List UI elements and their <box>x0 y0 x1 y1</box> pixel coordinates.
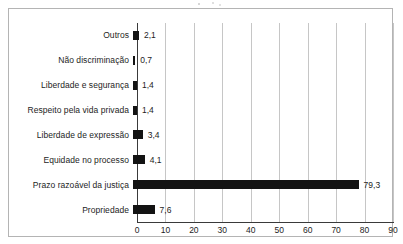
bar-7 <box>133 205 155 214</box>
bar-3 <box>133 106 137 115</box>
scan-speckle-artifact <box>196 2 226 6</box>
bar-row: Liberdade de expressão3,4 <box>9 123 403 148</box>
category-label-3: Respeito pela vida privada <box>9 105 133 115</box>
category-label-2: Liberdade e segurança <box>9 80 133 90</box>
bar-4 <box>133 130 143 139</box>
x-axis-line <box>137 222 394 223</box>
category-label-6: Prazo razoável da justiça <box>9 180 133 190</box>
chart-frame: Outros2,1Não discriminação0,7Liberdade e… <box>8 8 393 237</box>
x-tick-label-90: 90 <box>388 225 397 236</box>
bar-value-label-6: 79,3 <box>364 180 381 190</box>
category-label-4: Liberdade de expressão <box>9 130 133 140</box>
x-tick-label-80: 80 <box>360 225 369 236</box>
x-tick-label-0: 0 <box>135 225 140 236</box>
category-label-5: Equidade no processo <box>9 155 133 165</box>
bar-track: 3,4 <box>133 123 403 148</box>
bar-track: 79,3 <box>133 172 403 197</box>
bar-row: Propriedade7,6 <box>9 197 403 222</box>
bar-track: 4,1 <box>133 147 403 172</box>
x-axis-tick-labels: 0102030405060708090 <box>137 225 394 239</box>
bar-value-label-1: 0,7 <box>140 55 152 65</box>
bar-6 <box>133 180 359 189</box>
bar-track: 1,4 <box>133 73 403 98</box>
x-tick-label-20: 20 <box>189 225 198 236</box>
bar-5 <box>133 155 145 164</box>
x-tick-label-10: 10 <box>161 225 170 236</box>
bar-value-label-0: 2,1 <box>144 30 156 40</box>
bar-track: 1,4 <box>133 98 403 123</box>
bar-value-label-5: 4,1 <box>150 155 162 165</box>
bar-row: Prazo razoável da justiça79,3 <box>9 172 403 197</box>
bar-row: Respeito pela vida privada1,4 <box>9 98 403 123</box>
x-tick-label-30: 30 <box>218 225 227 236</box>
bar-row: Não discriminação0,7 <box>9 48 403 73</box>
x-tick-label-60: 60 <box>303 225 312 236</box>
bar-track: 7,6 <box>133 197 403 222</box>
x-tick-label-70: 70 <box>331 225 340 236</box>
category-label-0: Outros <box>9 30 133 40</box>
category-label-1: Não discriminação <box>9 55 133 65</box>
bar-value-label-4: 3,4 <box>148 130 160 140</box>
bar-value-label-3: 1,4 <box>142 105 154 115</box>
x-tick-label-50: 50 <box>274 225 283 236</box>
bar-2 <box>133 81 137 90</box>
bar-value-label-7: 7,6 <box>160 205 172 215</box>
bar-row: Liberdade e segurança1,4 <box>9 73 403 98</box>
bar-track: 2,1 <box>133 23 403 48</box>
x-tick-label-40: 40 <box>246 225 255 236</box>
bar-track: 0,7 <box>133 48 403 73</box>
category-label-7: Propriedade <box>9 205 133 215</box>
bar-value-label-2: 1,4 <box>142 80 154 90</box>
bar-row: Outros2,1 <box>9 23 403 48</box>
bar-row: Equidade no processo4,1 <box>9 147 403 172</box>
bar-0 <box>133 31 139 40</box>
bar-rows: Outros2,1Não discriminação0,7Liberdade e… <box>9 23 403 222</box>
bar-1 <box>133 56 135 65</box>
